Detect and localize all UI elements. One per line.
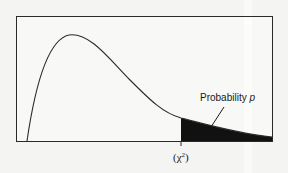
probability-label: Probability p [200, 92, 255, 103]
chi-square-chart: Probability p (χ2) [0, 0, 288, 173]
critical-value-label: (χ2) [173, 151, 189, 164]
plot-frame [17, 17, 273, 142]
